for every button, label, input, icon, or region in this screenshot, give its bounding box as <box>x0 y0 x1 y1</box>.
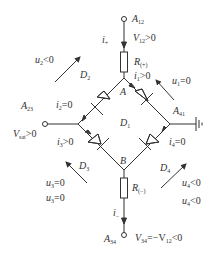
terminal-a12-circle <box>122 17 127 22</box>
label-node-b: B <box>120 156 126 166</box>
label-i-plus: i+ <box>102 35 108 46</box>
label-a12: A12 <box>132 14 144 25</box>
label-u1: u1=0 <box>172 76 191 87</box>
label-r-plus: R(+) <box>134 57 148 68</box>
label-vsat: Vsat>0 <box>13 129 36 140</box>
label-d4: D4 <box>160 163 170 174</box>
label-i3: i3>0 <box>57 137 73 148</box>
diode-d2-icon <box>91 91 110 115</box>
voltage-arrow-u2 <box>55 57 80 82</box>
label-u4-first: u4<0 <box>182 178 201 189</box>
diode-d1-icon <box>135 89 153 105</box>
current-arrow-i-minus <box>122 218 127 224</box>
diode-d3-icon <box>88 134 109 150</box>
label-i4: i4=0 <box>169 137 185 148</box>
label-node-a: A <box>120 87 126 97</box>
label-u4-second: u4<0 <box>182 196 201 207</box>
label-a34: A34 <box>104 234 116 245</box>
resistor-r-minus <box>121 178 128 198</box>
terminal-a34-circle <box>122 233 127 238</box>
label-v34: V34=−V12<0 <box>135 233 182 244</box>
label-i-minus: i− <box>113 208 119 219</box>
label-d2: D2 <box>80 70 90 81</box>
label-u3-second: u3=0 <box>46 193 65 204</box>
terminal-a23-circle <box>43 122 48 127</box>
current-arrow-i1 <box>129 83 135 88</box>
current-arrow-i4 <box>162 126 166 132</box>
current-arrow-i-plus <box>122 42 127 48</box>
label-r-minus: R(−) <box>132 183 146 194</box>
label-v12: V12>0 <box>133 33 156 44</box>
resistor-r-plus <box>121 52 128 72</box>
diode-d4-icon <box>139 134 159 150</box>
label-u3-first: u3=0 <box>46 178 65 189</box>
label-i2: i2=0 <box>56 100 72 111</box>
label-a23: A23 <box>21 101 33 112</box>
label-u2: u2<0 <box>35 55 54 66</box>
label-a41: A41 <box>173 106 185 117</box>
label-d3: D3 <box>79 161 89 172</box>
current-arrow-i3 <box>85 130 91 134</box>
label-d1: D1 <box>120 118 130 129</box>
label-i1: i1>0 <box>134 71 150 82</box>
